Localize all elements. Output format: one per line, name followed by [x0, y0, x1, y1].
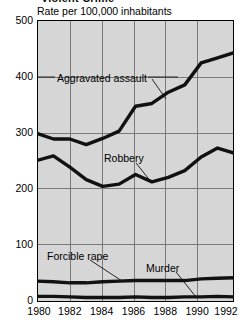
series-label-forcible-rape: Forcible rape [47, 250, 108, 262]
series-line-murder [37, 296, 234, 297]
leader-line-aggravated-assault-hook [152, 79, 166, 99]
series-label-aggravated-assault: Aggravated assault [57, 72, 147, 84]
leader-line-murder [176, 272, 196, 297]
series-line-forcible-rape [37, 278, 234, 283]
series-label-robbery: Robbery [104, 152, 144, 164]
leader-line-forcible-rape [90, 260, 122, 281]
violent-crime-chart-figure: Violent Crime Rate per 100,000 inhabitan… [0, 0, 249, 327]
series-line-aggravated-assault [37, 53, 234, 145]
series-label-murder: Murder [146, 262, 179, 274]
